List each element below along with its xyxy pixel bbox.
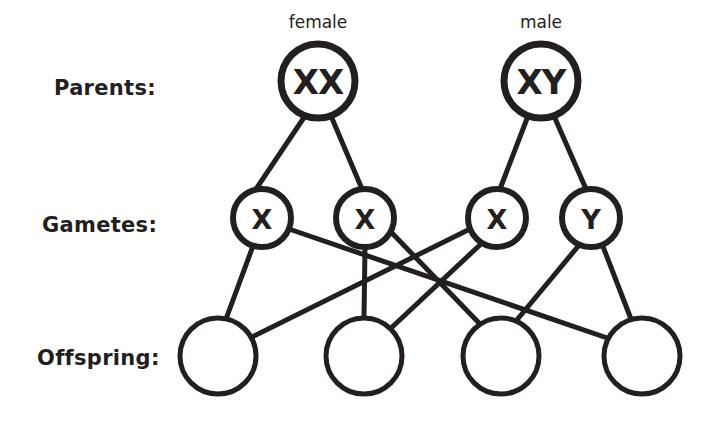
row-labels-group: Parents:Gametes:Offspring: <box>37 76 160 370</box>
gamete-node-1[interactable]: X <box>233 189 291 247</box>
link-gamete-3-offspring-2 <box>389 243 482 330</box>
parents-row: XXXY <box>281 44 578 118</box>
gamete-node-label-3: X <box>487 204 508 235</box>
link-parent-female-gamete-2 <box>331 116 362 189</box>
offspring-row <box>180 318 680 394</box>
offspring-node-circle-1[interactable] <box>180 318 256 394</box>
parent-node-label-2: XY <box>517 62 567 102</box>
gamete-node-label-2: X <box>355 204 376 235</box>
male-label: male <box>520 12 562 32</box>
offspring-node-1[interactable] <box>180 318 256 394</box>
sex-labels-group: femalemale <box>289 12 562 32</box>
offspring-node-3[interactable] <box>463 318 539 394</box>
link-parent-male-gamete-4 <box>554 116 586 189</box>
parent-node-2[interactable]: XY <box>504 44 578 118</box>
gamete-node-label-1: X <box>252 204 273 235</box>
female-label: female <box>289 12 348 32</box>
row-label-parents: Parents: <box>54 76 156 100</box>
offspring-node-circle-2[interactable] <box>326 318 402 394</box>
row-label-gametes: Gametes: <box>42 213 157 237</box>
genetics-diagram: Parents:Gametes:Offspring: femalemale XX… <box>0 0 714 421</box>
link-gamete-4-offspring-3 <box>516 244 580 321</box>
gamete-node-4[interactable]: Y <box>562 189 620 247</box>
gamete-node-label-4: Y <box>580 204 601 235</box>
parent-node-1[interactable]: XX <box>281 44 355 118</box>
parent-node-label-1: XX <box>293 62 344 102</box>
row-label-offspring: Offspring: <box>37 346 160 370</box>
gamete-node-2[interactable]: X <box>336 189 394 247</box>
offspring-node-2[interactable] <box>326 318 402 394</box>
link-parent-female-gamete-1 <box>256 116 305 189</box>
offspring-node-circle-4[interactable] <box>604 318 680 394</box>
gametes-row: XXXY <box>233 189 620 247</box>
offspring-node-4[interactable] <box>604 318 680 394</box>
link-parent-male-gamete-3 <box>500 116 528 189</box>
link-gamete-1-offspring-4 <box>289 229 616 341</box>
link-gamete-1-offspring-1 <box>226 246 253 319</box>
link-gamete-4-offspring-4 <box>602 244 631 319</box>
inheritance-diagram-canvas: Parents:Gametes:Offspring: femalemale XX… <box>0 0 714 421</box>
offspring-node-circle-3[interactable] <box>463 318 539 394</box>
gamete-node-3[interactable]: X <box>468 189 526 247</box>
